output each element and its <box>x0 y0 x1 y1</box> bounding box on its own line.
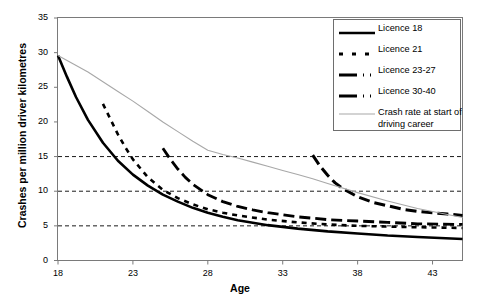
legend-item-crash-rate[interactable]: Crash rate at start of driving career <box>334 107 462 131</box>
y-tick-label: 0 <box>24 256 48 265</box>
legend-item-licence-23-27[interactable]: Licence 23-27 <box>334 65 462 85</box>
long-dash-line-sample <box>339 65 375 85</box>
legend-label: Licence 30-40 <box>378 86 462 97</box>
x-tick-label: 23 <box>118 269 148 278</box>
legend-item-licence-21[interactable]: Licence 21 <box>334 44 462 64</box>
x-tick-label: 38 <box>343 269 373 278</box>
chart-legend: Licence 18 Licence 21 Licence 23-27 Lice… <box>333 19 461 131</box>
dashed-line-sample <box>339 44 375 64</box>
legend-label: Licence 18 <box>378 23 462 34</box>
x-tick-label: 33 <box>268 269 298 278</box>
x-tick-label: 28 <box>193 269 223 278</box>
legend-label: Licence 21 <box>378 44 462 55</box>
x-axis-ticks <box>58 261 433 265</box>
chart-container: 05101520253035 182328333843 Crashes per … <box>0 0 480 303</box>
x-tick-label: 43 <box>418 269 448 278</box>
y-axis-title: Crashes per million driver kilometres <box>16 43 28 228</box>
y-tick-label: 35 <box>24 13 48 22</box>
long-dash-line-sample <box>339 86 375 106</box>
legend-label: Crash rate at start of driving career <box>378 107 462 130</box>
solid-line-sample <box>339 23 375 43</box>
legend-item-licence-30-40[interactable]: Licence 30-40 <box>334 86 462 106</box>
legend-item-licence-18[interactable]: Licence 18 <box>334 23 462 43</box>
x-tick-label: 18 <box>43 269 73 278</box>
thin-grey-line-sample <box>339 107 375 127</box>
legend-label: Licence 23-27 <box>378 65 462 76</box>
x-axis-title: Age <box>0 282 480 294</box>
